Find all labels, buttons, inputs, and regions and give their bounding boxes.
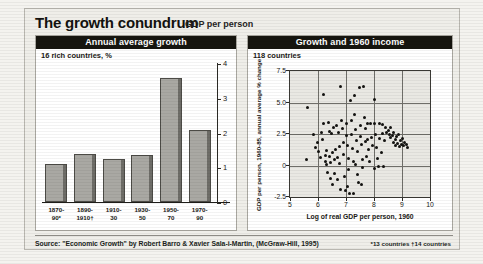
scatter-point [330, 132, 333, 135]
y-tick [217, 99, 221, 100]
bar [74, 154, 96, 202]
scatter-point [312, 133, 315, 136]
scatter-point [331, 183, 334, 186]
title-row: The growth conundrum GDP per person [35, 15, 453, 33]
scatter-point [333, 158, 336, 161]
scatter-point [394, 138, 397, 141]
y-tick [217, 134, 221, 135]
scatter-point [338, 145, 341, 148]
bar-shadow [121, 160, 124, 201]
scatter-y-tick [286, 102, 289, 103]
scatter-point [331, 151, 334, 154]
scatter-point [349, 99, 352, 102]
x-tick-label: 1930-50 [127, 206, 157, 221]
scatter-point [334, 148, 337, 151]
right-panel-heading: Growth and 1960 income [248, 36, 452, 49]
scatter-point [391, 134, 394, 137]
bar-shadow [207, 131, 210, 201]
x-tick-label: 1890-1910† [70, 206, 100, 221]
y-tick-label: 4 [223, 60, 227, 68]
scatter-point [337, 131, 340, 134]
scatter-point [335, 124, 338, 127]
y-tick [217, 168, 221, 169]
scatter-point [342, 153, 345, 156]
scatter-y-axis-title: GDP per person, 1960-85, annual average … [252, 70, 264, 200]
scatter-point [359, 124, 362, 127]
scatter-point [361, 166, 364, 169]
panel-annual-average-growth: Annual average growth 16 rich countries,… [35, 35, 237, 231]
left-panel-heading: Annual average growth [36, 36, 236, 49]
bar-chart-y-axis: 01234 [215, 63, 236, 204]
y-tick-label: 0 [223, 199, 227, 207]
scatter-point [322, 122, 325, 125]
footnote-text: *13 countries †14 countries [371, 239, 451, 248]
scatter-point [342, 141, 345, 144]
scatter-x-tick-label: 5 [288, 201, 292, 209]
scatter-point [329, 177, 332, 180]
bar-shadow [92, 155, 95, 201]
scatter-point [336, 178, 339, 181]
scatter-point [406, 146, 409, 149]
scatter-point [329, 161, 332, 164]
bar-chart-plot-area [42, 63, 214, 203]
scatter-point [314, 146, 317, 149]
bar-shadow [63, 165, 66, 201]
scatter-point [355, 139, 358, 142]
scatter-point [327, 121, 330, 124]
scatter-point [369, 122, 372, 125]
scatter-y-tick-label: 5.0 [277, 98, 286, 105]
x-tick-label: 1950-70 [156, 206, 186, 221]
scatter-y-tick [286, 196, 289, 197]
x-tick-label: 1910-30 [99, 206, 129, 221]
scatter-point [321, 138, 324, 141]
scatter-point [382, 165, 385, 168]
scatter-point [326, 171, 329, 174]
scatter-point [366, 122, 369, 125]
scatter-x-tick [318, 198, 319, 201]
scatter-point [356, 150, 359, 153]
footer-divider [35, 235, 453, 236]
scatter-point [360, 183, 363, 186]
bar [45, 164, 67, 202]
scatter-point [339, 188, 342, 191]
scatter-point [351, 147, 354, 150]
bar [189, 130, 211, 202]
scatter-y-tick [286, 70, 289, 71]
bar-shadow [178, 79, 181, 201]
scatter-y-tick [286, 133, 289, 134]
scatter-point [378, 137, 381, 140]
scatter-point [360, 143, 363, 146]
page-title: The growth conundrum [35, 15, 198, 31]
scatter-point [353, 113, 356, 116]
scatter-point [367, 148, 370, 151]
scatter-point [359, 135, 362, 138]
scatter-point [322, 93, 325, 96]
scatter-point [347, 168, 350, 171]
scatter-point [336, 156, 339, 159]
scatter-y-axis: -2.502.55.07.5 [265, 66, 289, 202]
scatter-x-tick [402, 198, 403, 201]
scatter-point [365, 155, 368, 158]
scatter-point [324, 154, 327, 157]
scatter-point [333, 172, 336, 175]
source-text: Source: "Economic Growth" by Robert Barr… [35, 239, 319, 248]
scatter-y-axis-title-text: GDP per person, 1960-85, annual average … [255, 59, 262, 211]
scatter-point [383, 139, 386, 142]
scatter-y-tick-label: 7.5 [277, 67, 286, 74]
scatter-point [373, 122, 376, 125]
scatter-point [401, 137, 404, 140]
scatter-point [352, 192, 355, 195]
scatter-point [373, 98, 376, 101]
scatter-point [341, 127, 344, 130]
scatter-point [346, 185, 349, 188]
x-tick-label: 1970-90 [185, 206, 215, 221]
scatter-point [328, 155, 331, 158]
scatter-point [345, 134, 348, 137]
scatter-point [353, 94, 356, 97]
scatter-point [346, 144, 349, 147]
scatter-point [317, 150, 320, 153]
scatter-point [325, 149, 328, 152]
scatter-point [380, 151, 383, 154]
scatter-point [306, 106, 309, 109]
y-tick-label: 3 [223, 95, 227, 103]
